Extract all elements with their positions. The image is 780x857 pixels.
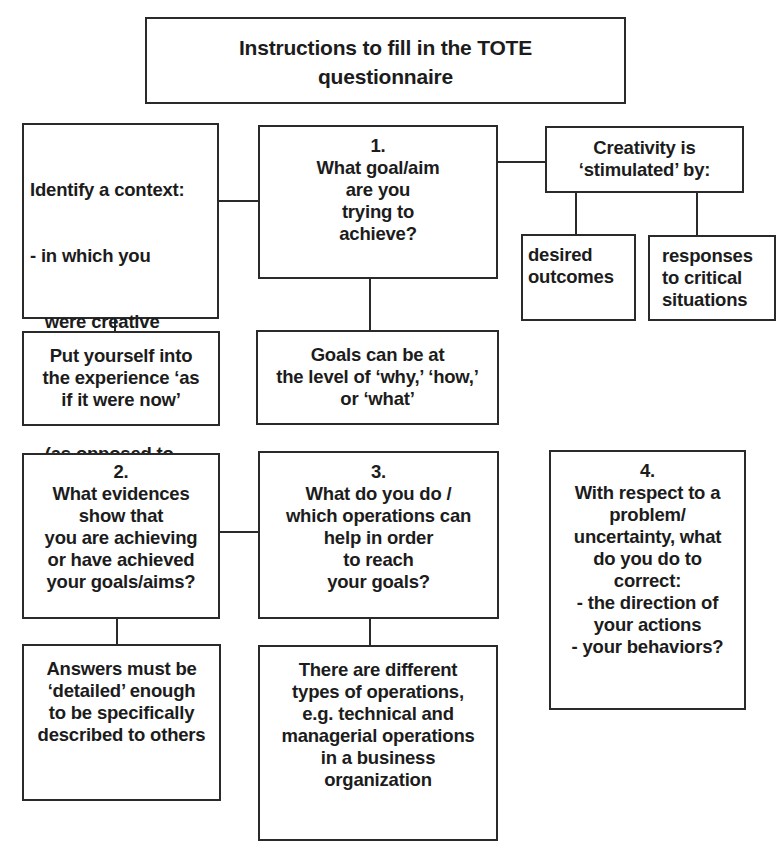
put-yourself-box: Put yourself into the experience ‘as if …	[22, 331, 220, 426]
creativity-line-2: ‘stimulated’ by:	[547, 159, 742, 181]
context-line-3: were creative	[30, 311, 217, 333]
title-line-1: Instructions to fill in the TOTE	[147, 33, 624, 62]
creativity-line-1: Creativity is	[547, 137, 742, 159]
step2-line-1: What evidences	[24, 483, 218, 505]
operations-types-line-2: types of operations,	[260, 681, 496, 703]
answers-line-3: to be specifically	[24, 702, 219, 724]
step4-line-1: With respect to a	[551, 482, 744, 504]
step2-line-2: show that	[24, 505, 218, 527]
connector-step1-to-goals-levels	[369, 278, 371, 330]
desired-outcomes-line-2: outcomes	[528, 266, 634, 288]
goals-levels-line-2: the level of ‘why,’ ‘how,’	[258, 366, 497, 388]
connector-step3-to-operations-types	[369, 618, 371, 645]
step4-line-8: - your behaviors?	[551, 636, 744, 658]
step4-correction-box: 4. With respect to a problem/ uncertaint…	[549, 450, 746, 710]
goals-levels-line-3: or ‘what’	[258, 388, 497, 410]
step3-line-5: your goals?	[260, 571, 497, 593]
identify-context-box: Identify a context: - in which you were …	[22, 123, 219, 319]
step1-line-4: achieve?	[260, 223, 496, 245]
step4-line-5: correct:	[551, 570, 744, 592]
step2-number: 2.	[24, 461, 218, 483]
responses-line-3: situations	[662, 289, 774, 311]
step3-line-3: help in order	[260, 527, 497, 549]
goals-levels-line-1: Goals can be at	[258, 344, 497, 366]
step4-line-7: your actions	[551, 614, 744, 636]
step2-line-4: or have achieved	[24, 549, 218, 571]
title-line-2: questionnaire	[147, 62, 624, 91]
step1-line-3: trying to	[260, 201, 496, 223]
operations-types-line-1: There are different	[260, 659, 496, 681]
step4-line-3: uncertainty, what	[551, 526, 744, 548]
connector-step2-to-step3	[219, 531, 258, 533]
responses-critical-situations-box: responses to critical situations	[648, 235, 776, 321]
put-yourself-line-1: Put yourself into	[24, 345, 218, 367]
step4-line-6: - the direction of	[551, 592, 744, 614]
connector-context-to-step1	[218, 200, 258, 202]
responses-line-2: to critical	[662, 267, 774, 289]
step4-number: 4.	[551, 460, 744, 482]
step3-number: 3.	[260, 461, 497, 483]
operations-types-line-3: e.g. technical and	[260, 703, 496, 725]
answers-line-4: described to others	[24, 724, 219, 746]
operations-types-line-5: in a business	[260, 747, 496, 769]
put-yourself-line-2: the experience ‘as	[24, 367, 218, 389]
connector-step2-to-answers	[116, 618, 118, 644]
step3-line-2: which operations can	[260, 505, 497, 527]
creativity-stimulated-box: Creativity is ‘stimulated’ by:	[545, 126, 744, 193]
operations-types-box: There are different types of operations,…	[258, 645, 498, 841]
put-yourself-line-3: if it were now’	[24, 389, 218, 411]
answers-line-2: ‘detailed’ enough	[24, 680, 219, 702]
desired-outcomes-line-1: desired	[528, 244, 634, 266]
responses-line-1: responses	[662, 245, 774, 267]
step4-line-4: do you do to	[551, 548, 744, 570]
step1-goal-box: 1. What goal/aim are you trying to achie…	[258, 125, 498, 279]
context-line-2: - in which you	[30, 245, 217, 267]
step3-line-1: What do you do /	[260, 483, 497, 505]
operations-types-line-4: managerial operations	[260, 725, 496, 747]
goals-levels-box: Goals can be at the level of ‘why,’ ‘how…	[256, 330, 499, 425]
connector-creativity-to-desired-outcomes	[575, 192, 577, 234]
step3-line-4: to reach	[260, 549, 497, 571]
step1-line-1: What goal/aim	[260, 157, 496, 179]
context-line-1: Identify a context:	[30, 179, 217, 201]
desired-outcomes-box: desired outcomes	[521, 234, 636, 321]
step3-operations-box: 3. What do you do / which operations can…	[258, 451, 499, 619]
step1-line-2: are you	[260, 179, 496, 201]
step2-line-3: you are achieving	[24, 527, 218, 549]
answers-detailed-box: Answers must be ‘detailed’ enough to be …	[22, 644, 221, 801]
step2-line-5: your goals/aims?	[24, 571, 218, 593]
operations-types-line-6: organization	[260, 769, 496, 791]
connector-creativity-to-responses	[696, 192, 698, 235]
diagram-title-box: Instructions to fill in the TOTE questio…	[145, 17, 626, 104]
step4-line-2: problem/	[551, 504, 744, 526]
connector-step1-to-creativity	[497, 161, 545, 163]
step2-evidence-box: 2. What evidences show that you are achi…	[22, 453, 220, 619]
step1-number: 1.	[260, 135, 496, 157]
answers-line-1: Answers must be	[24, 658, 219, 680]
